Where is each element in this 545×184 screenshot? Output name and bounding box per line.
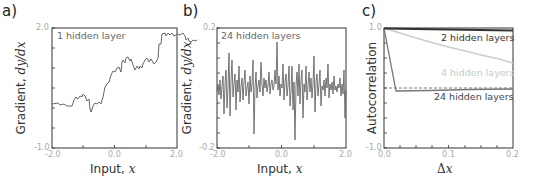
panel-c-xlabel: Δx xyxy=(437,162,452,176)
panel-b-xtick-2: 2.0 xyxy=(339,150,352,159)
panel-b-xtick-1: 0.0 xyxy=(275,150,288,159)
panel-b-annotation: 24 hidden layers xyxy=(221,30,301,41)
panel-b-gradient-line xyxy=(217,42,346,140)
panel-a-xlabel: Input, x xyxy=(90,162,135,176)
panel-a-ytick-top: 2.0 xyxy=(36,23,49,32)
panel-a-plot xyxy=(52,28,197,148)
panel-a-ylabel: Gradient, dy/dx xyxy=(14,33,28,143)
panel-b-ylabel: Gradient, dy/dx xyxy=(180,33,194,143)
panel-c-ytick-top: 1.0 xyxy=(369,23,382,32)
panel-a-xtick-1: 0.0 xyxy=(108,150,121,159)
panel-c-xtick-1: 0.1 xyxy=(442,150,455,159)
panel-c-xtick-0: 0.0 xyxy=(378,150,391,159)
panel-b-xlabel: Input, x xyxy=(257,162,302,176)
panel-a-xtick-0: -2.0 xyxy=(45,150,61,159)
legend-24-hidden-layers: 24 hidden layers xyxy=(434,91,514,102)
panel-c-ylabel: Autocorrelation xyxy=(365,33,379,143)
panel-b-ytick-top: 0.2 xyxy=(203,23,216,32)
panel-c-xtick-2: 0.2 xyxy=(506,150,519,159)
legend-2-hidden-layers: 2 hidden layers xyxy=(441,32,514,43)
panel-a-annotation: 1 hidden layer xyxy=(57,30,126,41)
panel-c-plot xyxy=(384,28,513,148)
series-2-hidden-layers xyxy=(384,29,513,31)
legend-4-hidden-layers: 4 hidden layers xyxy=(441,67,514,78)
panel-b-xtick-0: -2.0 xyxy=(210,150,226,159)
panel-b-plot xyxy=(217,28,346,148)
panel-a-gradient-line xyxy=(52,33,197,112)
panel-a-xtick-2: 2.0 xyxy=(170,150,183,159)
